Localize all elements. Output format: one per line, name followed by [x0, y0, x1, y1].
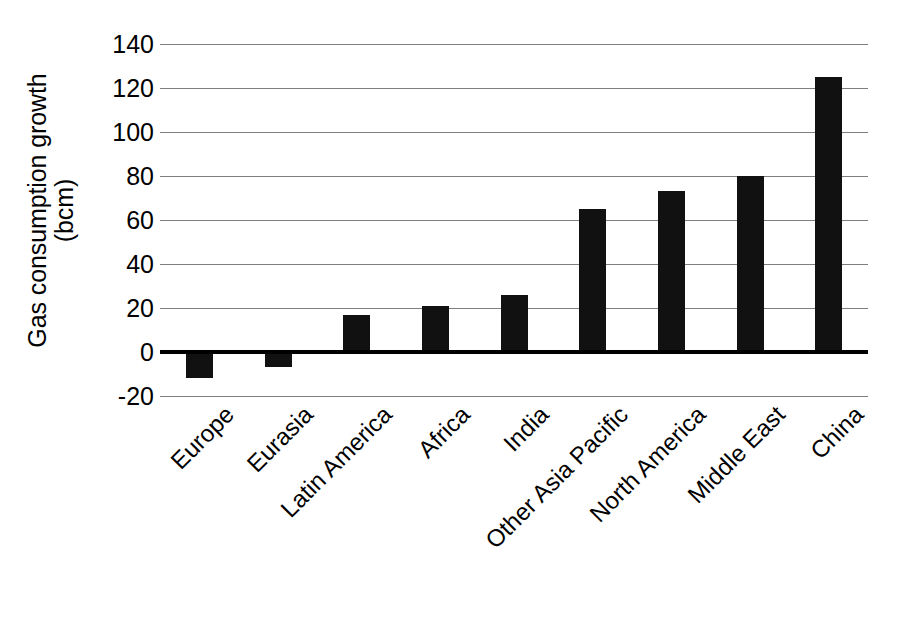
bar	[658, 191, 685, 352]
x-axis-category-label: Eurasia	[243, 402, 318, 477]
gridline	[160, 396, 868, 397]
y-axis-tick-label: 60	[86, 208, 154, 233]
gridline	[160, 88, 868, 89]
y-axis-title-text: Gas consumption growth (bcm)	[23, 73, 78, 347]
bar	[737, 176, 764, 352]
y-axis-tick-label: 40	[86, 252, 154, 277]
y-axis-title-line-1: Gas consumption growth	[23, 73, 51, 347]
gridline	[160, 132, 868, 133]
y-axis-tick-label: 0	[86, 340, 154, 365]
bar	[501, 295, 528, 352]
bar-chart-figure: Gas consumption growth (bcm) 14012010080…	[0, 0, 899, 620]
bar	[422, 306, 449, 352]
bar	[343, 315, 370, 352]
bar	[186, 352, 213, 378]
y-axis-title-line-2: (bcm)	[50, 73, 78, 347]
x-axis-category-label: India	[499, 402, 553, 456]
y-axis-tick-label: 120	[86, 76, 154, 101]
y-axis-tick-label: 80	[86, 164, 154, 189]
x-axis-category-label: Africa	[414, 402, 474, 462]
bar	[579, 209, 606, 352]
y-axis-tick-label: -20	[86, 384, 154, 409]
y-axis-title: Gas consumption growth (bcm)	[0, 0, 100, 420]
gridline	[160, 44, 868, 45]
zero-axis-line	[160, 350, 868, 354]
x-axis-category-labels: EuropeEurasiaLatin AmericaAfricaIndiaOth…	[160, 402, 899, 620]
x-axis-category-label: Other Asia Pacific	[481, 402, 632, 553]
y-axis-tick-label: 140	[86, 32, 154, 57]
x-axis-category-label: Europe	[167, 402, 239, 474]
y-axis-tick-label: 20	[86, 296, 154, 321]
y-axis-tick-labels: 140120100806040200-20	[86, 0, 154, 420]
x-axis-category-label: China	[806, 402, 867, 463]
plot-area	[160, 0, 868, 420]
bar	[265, 352, 292, 367]
y-axis-tick-label: 100	[86, 120, 154, 145]
bar	[815, 77, 842, 352]
